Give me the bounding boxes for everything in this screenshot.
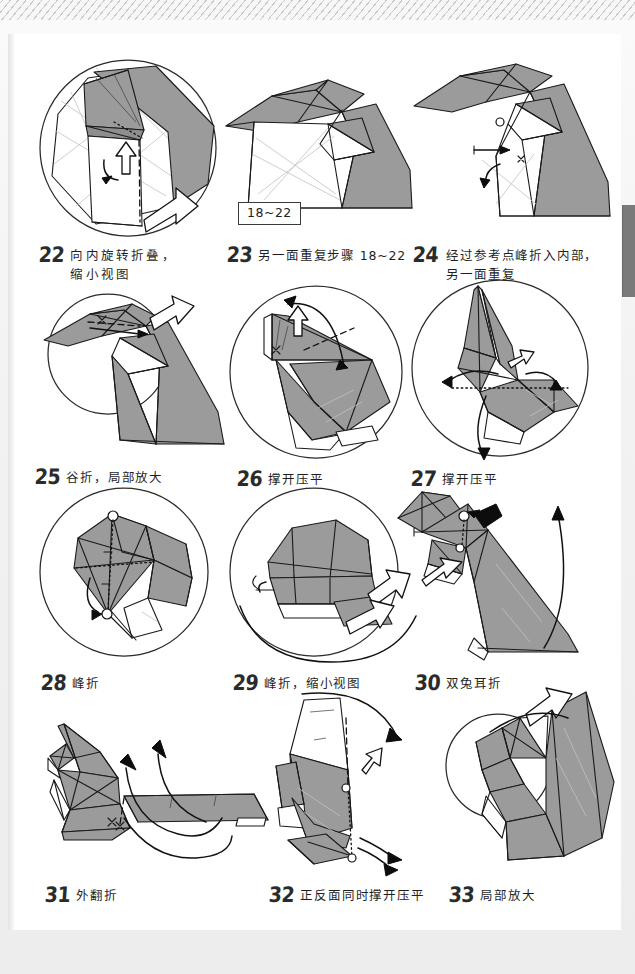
step-22: 22 向内旋转折叠， 缩小视图	[36, 56, 221, 241]
step-25-number: 25	[34, 466, 61, 487]
step-29-text: 峰折，缩小视图	[264, 674, 361, 693]
step-24-diagram	[412, 64, 612, 239]
step-26-diagram	[226, 282, 406, 462]
page-root: 22 向内旋转折叠， 缩小视图	[0, 0, 635, 974]
step-23-caption: 23 另一面重复步骤 18~22	[226, 246, 406, 265]
step-30-diagram	[392, 478, 612, 668]
step-33-number: 33	[448, 884, 475, 905]
step-32: 32 正反面同时撑开压平	[274, 692, 434, 872]
step-24: 24 经过参考点峰折入内部， 另一面重复	[412, 64, 612, 239]
step-31-diagram	[24, 714, 274, 874]
step-29-diagram	[226, 486, 416, 666]
step-28-caption: 28 峰折	[40, 674, 100, 693]
step-25: 25 谷折，局部放大	[28, 292, 243, 457]
step-31-number: 31	[44, 884, 71, 905]
step-23-number: 23	[226, 244, 253, 265]
step-28-number: 28	[40, 672, 67, 693]
step-22-diagram	[36, 56, 221, 241]
step-27: 27 撑开压平	[408, 272, 598, 462]
step-32-diagram	[274, 692, 434, 872]
step-30: 30 双兔耳折	[392, 478, 612, 668]
step-28-text: 峰折	[72, 674, 100, 693]
step-22-caption: 22 向内旋转折叠， 缩小视图	[38, 246, 177, 285]
step-24-number: 24	[412, 244, 439, 265]
step-25-diagram	[28, 292, 243, 457]
step-29-number: 29	[232, 672, 259, 693]
step-29: 29 峰折，缩小视图	[226, 486, 416, 666]
section-tab[interactable]	[622, 205, 635, 297]
step-29-caption: 29 峰折，缩小视图	[232, 674, 361, 693]
step-31: 31 外翻折	[24, 714, 274, 874]
step-33-diagram	[424, 688, 624, 873]
step-23-text: 另一面重复步骤 18~22	[258, 246, 406, 265]
step-33-caption: 33 局部放大	[448, 886, 536, 905]
step-26: 26 撑开压平	[226, 282, 406, 462]
paper-page: 22 向内旋转折叠， 缩小视图	[14, 34, 621, 930]
step-22-text: 向内旋转折叠， 缩小视图	[70, 246, 176, 285]
step-32-number: 32	[268, 884, 295, 905]
step-28-diagram	[36, 486, 216, 666]
step-31-text: 外翻折	[76, 886, 117, 905]
step-33-text: 局部放大	[480, 886, 535, 905]
step-32-text: 正反面同时撑开压平	[300, 886, 424, 905]
step-33: 33 局部放大	[424, 688, 624, 873]
step-27-diagram	[408, 272, 598, 462]
step-22-number: 22	[38, 244, 65, 265]
repeat-range-box: 18~22	[238, 202, 301, 225]
top-hatch-border	[0, 0, 635, 22]
step-32-caption: 32 正反面同时撑开压平	[268, 886, 425, 905]
step-25-caption: 25 谷折，局部放大	[34, 468, 163, 487]
step-25-text: 谷折，局部放大	[66, 468, 163, 487]
step-23: 18~22 23 另一面重复步骤 18~22	[224, 74, 419, 234]
step-28: 28 峰折	[36, 486, 216, 666]
step-31-caption: 31 外翻折	[44, 886, 118, 905]
